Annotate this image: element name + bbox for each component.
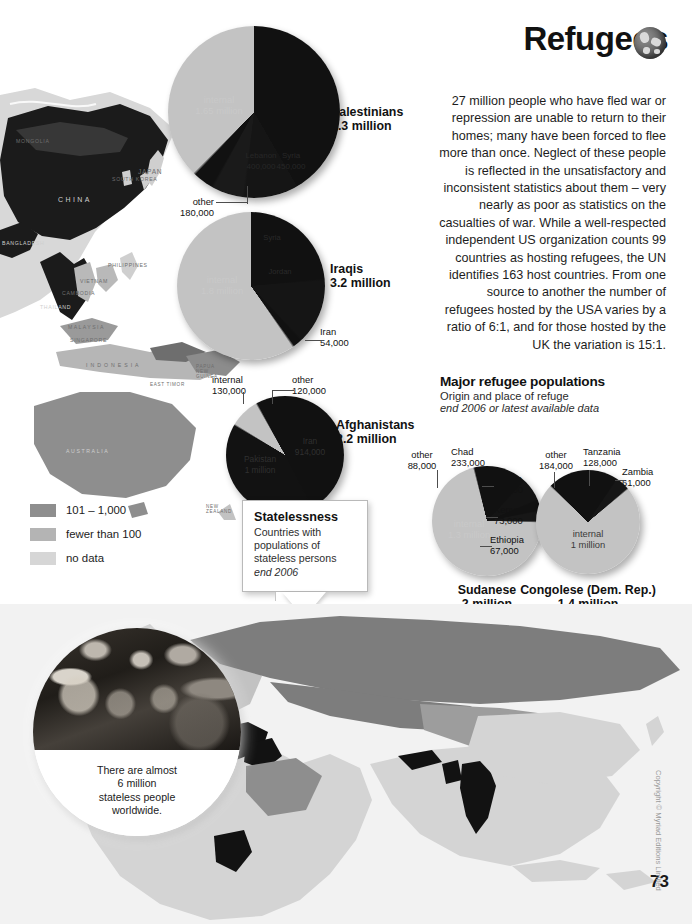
copyright-notice: Copyright © Myriad Editions Limited (654, 770, 663, 891)
pie-slice-label: Syria 450,000 (264, 150, 318, 172)
legend-label: 101 – 1,000 (66, 504, 126, 516)
pie-slice-label: Lebanon 400,000 (234, 150, 288, 172)
statelessness-date: end 2006 (254, 566, 357, 578)
chart-title-palestinians: Palestinians 4.3 million (331, 105, 403, 133)
leader-line (486, 517, 498, 518)
chart-title-afghanistans: Afghanistans 2.2 million (336, 418, 414, 446)
leader-line (589, 470, 590, 486)
intro-paragraph: 27 million people who have fled war or r… (438, 93, 666, 354)
legend-swatch (30, 528, 56, 541)
pie-chart-iraqis[interactable]: internal 1.8 million Syria Jordan (177, 212, 325, 360)
section-heading: Major refugee populations (440, 374, 680, 389)
leader-line (216, 202, 248, 203)
pie-slice-label: Iran 914,000 (282, 436, 338, 458)
legend-item[interactable]: no data (30, 546, 141, 570)
pie-slice-label: internal 1.8 million (179, 274, 265, 296)
pie-slice-label: Pakistan 1 million (230, 454, 290, 476)
caption-line-1: There are almost (97, 764, 177, 776)
caption-line-4: worldwide. (112, 804, 162, 816)
section-header: Major refugee populations Origin and pla… (440, 374, 680, 414)
pie-chart-palestinians[interactable]: internal 1.65 million Lebanon 400,000 Sy… (168, 26, 340, 198)
photo-caption: There are almost 6 million stateless peo… (33, 750, 241, 836)
photo-circle-refugees: There are almost 6 million stateless peo… (33, 628, 241, 836)
legend-label: no data (66, 552, 104, 564)
section-subheading: Origin and place of refuge (440, 390, 680, 402)
pie-slice-label: internal 1.65 million (176, 94, 262, 116)
section-note: end 2006 or latest available data (440, 402, 680, 414)
caption-line-2: 6 million (118, 777, 157, 789)
statelessness-body: Countries with populations of stateless … (254, 526, 357, 565)
leader-line (247, 186, 248, 204)
callout-congolese-other: other 184,000 (529, 449, 583, 471)
map-legend: 101 – 1,000 fewer than 100 no data (30, 498, 141, 570)
leader-line (615, 480, 625, 481)
leader-line (554, 472, 555, 488)
legend-item[interactable]: fewer than 100 (30, 522, 141, 546)
leader-line (243, 392, 244, 404)
leader-line (272, 390, 294, 391)
callout-sudanese-uganda: Uganda 216,000 (489, 473, 551, 495)
callout-congolese-tanzania: Tanzania 128,000 (583, 446, 647, 468)
callout-afghanistans-internal: internal 130,000 (212, 374, 272, 396)
globe-icon (634, 27, 666, 59)
callout-iraqis-iran: Iran 54,000 (320, 326, 376, 348)
pie-slice-label: Syria (249, 232, 295, 243)
page-canvas: MONGOLIA CHINA JAPAN SOUTH KOREA BANGLAD… (0, 0, 692, 924)
legend-item[interactable]: 101 – 1,000 (30, 498, 141, 522)
legend-label: fewer than 100 (66, 528, 141, 540)
legend-swatch (30, 552, 56, 565)
callout-sudanese-chad: Chad 233,000 (451, 446, 509, 468)
pie-slice-label: Jordan (257, 266, 303, 277)
leader-line (480, 546, 492, 547)
refugee-photograph (33, 628, 241, 750)
callout-afghanistans-other: other 120,000 (292, 374, 352, 396)
legend-swatch (30, 504, 56, 517)
leader-line (305, 340, 323, 341)
caption-line-3: stateless people (99, 791, 176, 803)
callout-congolese-zambia: Zambia 61,000 (622, 466, 680, 488)
callout-palestinians-other: other 180,000 (158, 196, 214, 218)
pie-slice-label: internal 1 million (556, 528, 620, 550)
leader-line (272, 390, 273, 404)
pie-chart-afghanistans[interactable]: Iran 914,000 Pakistan 1 million (226, 396, 344, 514)
leader-line (482, 486, 494, 487)
chart-title-iraqis: Iraqis 3.2 million (330, 262, 391, 290)
statelessness-title: Statelessness (254, 510, 357, 524)
statelessness-box: Statelessness Countries with populations… (242, 500, 368, 592)
callout-sudanese-other: other 88,000 (395, 449, 449, 471)
leader-line (437, 470, 438, 488)
